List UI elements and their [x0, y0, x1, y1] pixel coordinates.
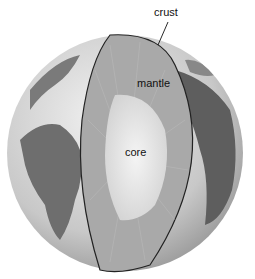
- label-mantle: mantle: [137, 77, 170, 89]
- label-crust: crust: [154, 6, 178, 18]
- earth-diagram: [0, 0, 255, 279]
- label-core: core: [125, 146, 146, 158]
